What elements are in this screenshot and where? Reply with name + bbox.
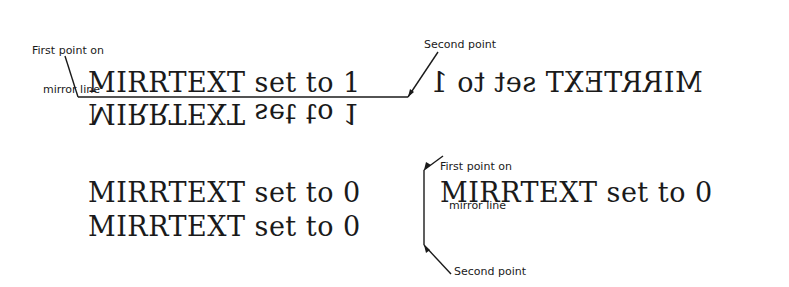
top-mirrored-right-text: MIRRTEXT set to 1 xyxy=(430,69,703,96)
top-first-point-label-line1: First point on xyxy=(32,44,104,57)
bottom-mirrored-right-text: MIRRTEXT set to 0 xyxy=(440,179,713,206)
bottom-first-point-label-line1: First point on xyxy=(440,160,512,173)
top-original-text: MIRRTEXT set to 1 xyxy=(88,69,361,96)
bottom-original-text-1: MIRRTEXT set to 0 xyxy=(88,179,361,206)
bottom-original-text-2: MIRRTEXT set to 0 xyxy=(88,213,361,240)
bottom-second-point-arrow xyxy=(424,245,430,253)
bottom-second-point-label: Second point xyxy=(454,265,526,278)
mirrtext-diagram: First point on mirror line Second point … xyxy=(0,0,789,287)
top-mirrored-below-text: MIRRTEXT set to 1 xyxy=(88,100,361,127)
top-second-point-label: Second point xyxy=(424,38,496,51)
mirror-lines xyxy=(0,0,789,287)
